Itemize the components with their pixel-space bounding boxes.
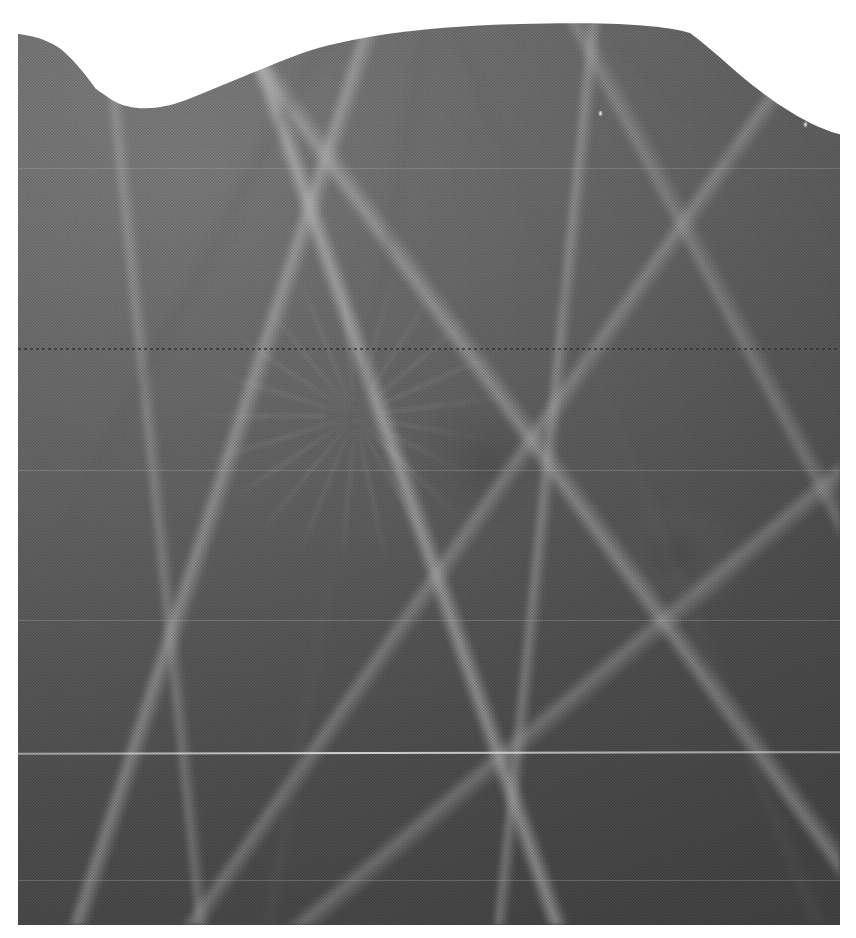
radiograph-plate <box>18 0 840 925</box>
page-margin-left <box>0 0 18 938</box>
film-grain-texture <box>18 0 840 925</box>
radiograph-page <box>0 0 856 938</box>
page-margin-bottom <box>0 925 856 938</box>
page-margin-right <box>840 0 856 938</box>
